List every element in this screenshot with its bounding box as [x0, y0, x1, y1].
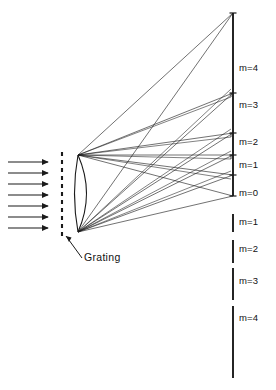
ray-bottom-order-4: [78, 175, 233, 232]
order-label-upper-0: m=4: [239, 63, 258, 73]
ray-top-order-2: [78, 133, 233, 155]
pointer-arrowhead: [66, 236, 72, 242]
ray-bottom-aux-0: [78, 89, 231, 232]
figure-canvas: m=4m=3m=2m=1m=0m=1m=2m=3m=4 Grating: [0, 0, 276, 390]
lens-body: [75, 155, 87, 232]
ray-top-order-4: [78, 155, 233, 175]
order-label-upper-4: m=0: [239, 188, 258, 198]
incident-light-arrows: [8, 162, 48, 228]
order-label-lower-1: m=2: [239, 244, 258, 254]
ray-diagram-svg: [0, 0, 276, 390]
ray-bottom-order-3: [78, 155, 233, 232]
ray-bottom-order-0: [78, 13, 233, 232]
ray-fan-from-top-vertex: [78, 13, 233, 196]
order-label-lower-3: m=4: [239, 313, 258, 323]
ray-top-order-0: [78, 13, 233, 155]
ray-bottom-order-5: [78, 196, 233, 232]
ray-top-aux-0: [78, 97, 231, 155]
order-label-lower-0: m=1: [239, 217, 258, 227]
order-label-lower-2: m=3: [239, 276, 258, 286]
grating-pointer-line: [66, 236, 82, 258]
order-label-upper-3: m=1: [239, 160, 258, 170]
order-label-upper-2: m=2: [239, 137, 258, 147]
ray-fan-from-bottom-vertex: [78, 13, 233, 232]
lens-left-surface: [75, 155, 79, 232]
grating-label: Grating: [84, 252, 121, 263]
ray-bottom-order-2: [78, 133, 233, 232]
order-label-upper-1: m=3: [239, 100, 258, 110]
lens-right-surface: [78, 155, 87, 232]
